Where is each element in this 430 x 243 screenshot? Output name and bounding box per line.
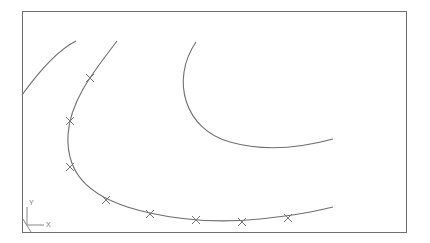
ucs-y-label: Y (29, 199, 34, 206)
drawing-canvas[interactable]: Y X (0, 0, 430, 243)
ucs-x-label: X (46, 221, 51, 228)
viewport-frame (23, 12, 407, 233)
